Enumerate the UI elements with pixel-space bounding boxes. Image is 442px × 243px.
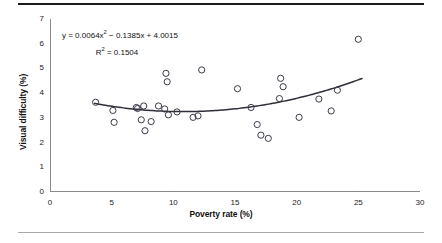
data-point xyxy=(93,99,99,105)
bottom-divider-rule xyxy=(18,232,424,233)
data-point xyxy=(334,87,340,93)
scatter-plot-svg xyxy=(50,19,420,192)
y-tick-6: 6 xyxy=(30,39,44,48)
top-divider-rule xyxy=(18,3,424,5)
y-tick-4: 4 xyxy=(30,88,44,97)
x-tick-5: 5 xyxy=(102,198,122,207)
data-point xyxy=(165,112,171,118)
data-point xyxy=(278,75,284,81)
y-tick-7: 7 xyxy=(30,14,44,23)
y-tick-0: 0 xyxy=(30,187,44,196)
x-tick-0: 0 xyxy=(40,198,60,207)
data-point xyxy=(141,103,147,109)
data-point xyxy=(164,79,170,85)
data-point xyxy=(328,108,334,114)
figure-container: Visual difficulty (%) Poverty rate (%) 0… xyxy=(0,0,442,243)
data-point xyxy=(316,96,322,102)
data-point xyxy=(234,86,240,92)
x-axis-title: Poverty rate (%) xyxy=(0,209,442,219)
data-point xyxy=(148,118,154,124)
data-points xyxy=(93,36,362,141)
data-point xyxy=(265,135,271,141)
x-tick-15: 15 xyxy=(225,198,245,207)
data-point xyxy=(138,117,144,123)
data-point xyxy=(254,121,260,127)
data-point xyxy=(199,67,205,73)
data-point xyxy=(276,95,282,101)
y-axis-title: Visual difficulty (%) xyxy=(18,74,28,150)
x-tick-20: 20 xyxy=(287,198,307,207)
y-tick-3: 3 xyxy=(30,113,44,122)
data-point xyxy=(163,70,169,76)
x-tick-10: 10 xyxy=(163,198,183,207)
data-point xyxy=(155,103,161,109)
y-tick-5: 5 xyxy=(30,63,44,72)
data-point xyxy=(111,119,117,125)
x-tick-25: 25 xyxy=(348,198,368,207)
y-tick-2: 2 xyxy=(30,138,44,147)
data-point xyxy=(355,36,361,42)
x-tick-30: 30 xyxy=(410,198,430,207)
y-tick-1: 1 xyxy=(30,162,44,171)
plot-area xyxy=(50,19,420,192)
data-point xyxy=(110,107,116,113)
data-point xyxy=(142,128,148,134)
data-point xyxy=(258,132,264,138)
data-point xyxy=(280,84,286,90)
data-point xyxy=(296,114,302,120)
